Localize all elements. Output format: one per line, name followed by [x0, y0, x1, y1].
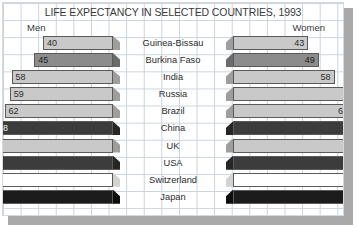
bar-row: 74Switzerland81: [3, 172, 343, 189]
men-bar: 59: [10, 87, 113, 101]
country-label: Burkina Faso: [114, 52, 232, 69]
country-label: Guinea-Bissau: [114, 35, 232, 52]
women-value-label: 68: [338, 105, 344, 119]
country-label: UK: [114, 138, 232, 155]
women-bar: 68: [233, 104, 344, 118]
chart-screenshot: LIFE EXPECTANCY IN SELECTED COUNTRIES, 1…: [0, 0, 357, 229]
women-bar: 78: [233, 139, 344, 153]
women-bar: 81: [233, 173, 344, 187]
bar-row: 72USA79: [3, 155, 343, 172]
women-bar: 78: [233, 190, 344, 204]
women-value-label: 43: [294, 37, 304, 51]
women-value-label: 49: [305, 54, 315, 68]
men-value-label: 68: [2, 122, 8, 136]
country-label: Switzerland: [114, 172, 232, 189]
country-label: USA: [114, 155, 232, 172]
men-bar: 40: [43, 36, 113, 50]
women-bar: 79: [233, 156, 344, 170]
women-bar: 49: [233, 53, 319, 67]
men-value-label: 40: [47, 37, 57, 51]
bar-rows: 40Guinea-Bissau4345Burkina Faso4958India…: [3, 35, 343, 206]
women-bar: 58: [233, 70, 335, 84]
men-value-label: 45: [38, 54, 48, 68]
country-label: Japan: [114, 189, 232, 206]
women-bar: 71: [233, 121, 344, 135]
men-bar: 62: [5, 104, 114, 118]
country-label: India: [114, 69, 232, 86]
country-label: China: [114, 120, 232, 137]
bar-row: 62Brazil68: [3, 103, 343, 120]
men-bar: 58: [12, 70, 114, 84]
bar-row: 59Russia72: [3, 86, 343, 103]
country-label: Brazil: [114, 103, 232, 120]
women-bar: 72: [233, 87, 344, 101]
bar-row: 45Burkina Faso49: [3, 52, 343, 69]
bar-row: 75Japan78: [3, 189, 343, 206]
legend-men-label: Men: [27, 22, 45, 33]
chart-canvas: LIFE EXPECTANCY IN SELECTED COUNTRIES, 1…: [2, 2, 344, 216]
men-bar: 72: [2, 139, 113, 153]
men-value-label: 62: [9, 105, 19, 119]
men-bar: 45: [34, 53, 113, 67]
men-bar: 68: [2, 121, 113, 135]
chart-title: LIFE EXPECTANCY IN SELECTED COUNTRIES, 1…: [3, 6, 343, 18]
men-value-label: 58: [16, 71, 26, 85]
bar-row: 40Guinea-Bissau43: [3, 35, 343, 52]
men-value-label: 59: [14, 88, 24, 102]
bar-row: 72UK78: [3, 138, 343, 155]
men-bar: 75: [2, 190, 113, 204]
legend-women-label: Women: [292, 22, 325, 33]
women-value-label: 71: [343, 122, 344, 136]
country-label: Russia: [114, 86, 232, 103]
men-bar: 74: [2, 173, 113, 187]
women-value-label: 58: [320, 71, 330, 85]
women-bar: 43: [233, 36, 308, 50]
bar-row: 58India58: [3, 69, 343, 86]
men-bar: 72: [2, 156, 113, 170]
bar-row: 68China71: [3, 120, 343, 137]
